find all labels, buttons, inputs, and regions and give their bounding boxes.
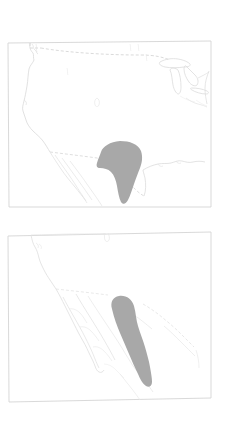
us-mexico-border-bottom — [31, 234, 108, 295]
california-coastline — [31, 235, 56, 289]
great-lakes — [159, 59, 209, 94]
gulf-coastline — [143, 161, 205, 170]
canada-us-border-line — [30, 43, 170, 60]
panel-united-states — [0, 0, 230, 214]
atlantic-coastline — [186, 71, 209, 107]
map-frame-top — [8, 41, 211, 207]
map-frame-bottom — [8, 232, 211, 402]
baja-peninsula-outline-top — [50, 152, 102, 206]
panel-northwest-mexico — [0, 214, 230, 428]
distribution-map-figure — [0, 0, 230, 428]
range-polygon-texas — [97, 141, 142, 204]
pacific-coastline — [23, 43, 50, 152]
